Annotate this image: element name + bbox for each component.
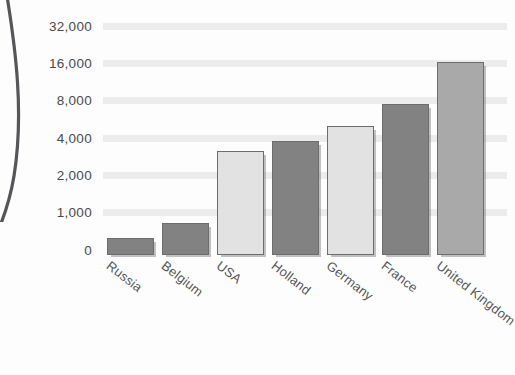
- bar-usa: [217, 151, 264, 255]
- y-axis-tick-4000: 4,000: [57, 130, 92, 145]
- x-axis-label-usa: USA: [214, 258, 245, 287]
- x-axis-label-germany: Germany: [324, 258, 376, 304]
- y-axis-tick-0: 0: [84, 243, 92, 258]
- y-axis-tick-labels: 01,0002,0004,0008,00016,00032,000: [0, 0, 100, 270]
- y-axis-tick-1000: 1,000: [57, 205, 92, 220]
- bar-united-kingdom: [437, 62, 484, 255]
- bar-germany: [327, 126, 374, 255]
- y-axis-tick-2000: 2,000: [57, 167, 92, 182]
- bar-russia: [107, 238, 154, 255]
- y-axis-tick-8000: 8,000: [57, 93, 92, 108]
- bar-series: [103, 8, 507, 255]
- bar-france: [382, 104, 429, 255]
- y-axis-tick-16000: 16,000: [49, 56, 92, 71]
- x-axis-label-belgium: Belgium: [159, 258, 206, 300]
- plot-area: [103, 8, 507, 255]
- bar-holland: [272, 141, 319, 255]
- x-axis-label-holland: Holland: [269, 258, 314, 298]
- y-axis-tick-32000: 32,000: [49, 19, 92, 34]
- x-axis-label-united-kingdom: United Kingdom: [434, 258, 515, 329]
- x-axis-label-russia: Russia: [104, 258, 145, 295]
- x-axis-category-labels: RussiaBelgiumUSAHollandGermanyFranceUnit…: [103, 258, 507, 368]
- bar-chart: 01,0002,0004,0008,00016,00032,000 Russia…: [0, 0, 515, 375]
- x-axis-label-france: France: [379, 258, 421, 295]
- bar-belgium: [162, 223, 209, 255]
